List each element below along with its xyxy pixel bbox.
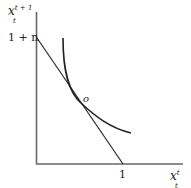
x-axis-label-sup: t [177, 169, 180, 177]
y-axis-label: xt + 1 t [8, 4, 32, 18]
y-axis-label-sup: t + 1 [15, 4, 33, 12]
y-axis-label-base: x [8, 4, 15, 18]
tangency-point-label: o [83, 93, 89, 104]
y-intercept-label: 1 + n [8, 31, 38, 44]
indifference-curve [63, 38, 131, 133]
x-intercept-label: 1 [119, 168, 126, 181]
x-axis-label: xt t [170, 169, 180, 183]
x-axis-label-base: x [170, 169, 177, 183]
y-axis-label-sub: t [13, 17, 16, 25]
x-axis-label-sub: t [175, 182, 178, 188]
diagram-canvas [0, 0, 191, 188]
